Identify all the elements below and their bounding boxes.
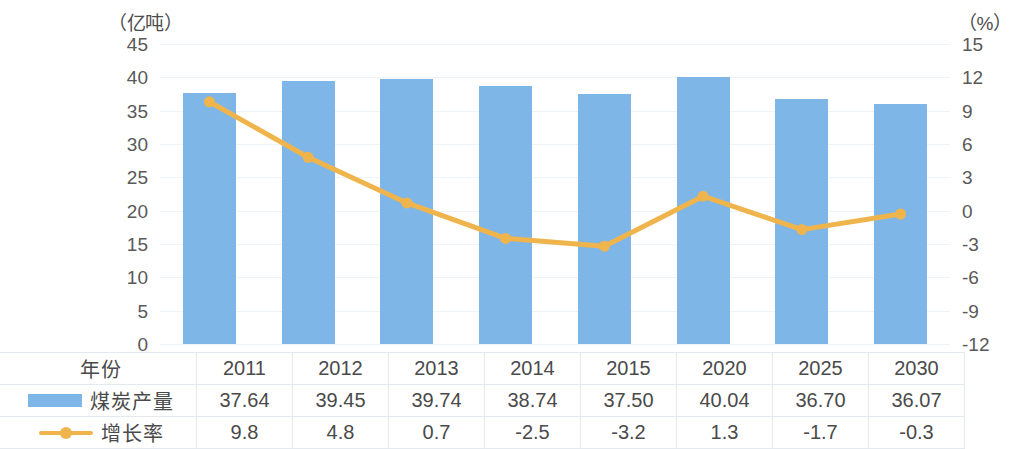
table-cell: 39.45 (293, 385, 389, 417)
table-cell: -2.5 (485, 417, 581, 449)
marker-2030 (895, 209, 906, 220)
row-header-label: 年份 (80, 354, 122, 383)
left-tick-45: 45 (108, 35, 148, 54)
table-cell: 0.7 (389, 417, 485, 449)
row-header-label: 增长率 (101, 418, 164, 447)
right-tick-6: 6 (962, 135, 1008, 154)
right-tick-12: 12 (962, 68, 1008, 87)
marker-2020 (698, 191, 709, 202)
marker-2013 (401, 197, 412, 208)
growth-rate-line (209, 102, 900, 246)
row-header-year: 年份 (0, 353, 197, 385)
table-cell: 2020 (677, 353, 773, 385)
left-tick-30: 30 (108, 135, 148, 154)
table-cell: 38.74 (485, 385, 581, 417)
table-cell: 2025 (773, 353, 869, 385)
table-cell: 4.8 (293, 417, 389, 449)
table-cell: 2015 (581, 353, 677, 385)
table-cell: 2014 (485, 353, 581, 385)
table-cell: -1.7 (773, 417, 869, 449)
right-axis-ticks: 15129630-3-6-9-12 (962, 0, 1008, 448)
left-tick-20: 20 (108, 202, 148, 221)
left-tick-10: 10 (108, 268, 148, 287)
left-tick-35: 35 (108, 102, 148, 121)
left-tick-40: 40 (108, 68, 148, 87)
table-row: 煤炭产量37.6439.4539.7438.7437.5040.0436.703… (0, 385, 965, 417)
table-cell: 40.04 (677, 385, 773, 417)
table-cell: 37.50 (581, 385, 677, 417)
line-series (160, 44, 950, 344)
table-cell: 2012 (293, 353, 389, 385)
left-tick-25: 25 (108, 168, 148, 187)
row-header-label: 煤炭产量 (90, 386, 174, 415)
row-header-coal-production: 煤炭产量 (0, 385, 197, 417)
table-row: 增长率9.84.80.7-2.5-3.21.3-1.7-0.3 (0, 417, 965, 449)
gridline (160, 344, 950, 345)
marker-2012 (303, 152, 314, 163)
table-cell: -3.2 (581, 417, 677, 449)
left-tick-5: 5 (108, 302, 148, 321)
right-tick--12: -12 (962, 335, 1008, 354)
table-row: 年份20112012201320142015202020252030 (0, 353, 965, 385)
table-cell: 1.3 (677, 417, 773, 449)
data-table: 年份20112012201320142015202020252030煤炭产量37… (0, 352, 965, 449)
right-tick-0: 0 (962, 202, 1008, 221)
right-tick-15: 15 (962, 35, 1008, 54)
right-tick--9: -9 (962, 302, 1008, 321)
table-cell: 9.8 (197, 417, 293, 449)
table-cell: 36.07 (869, 385, 965, 417)
growth-rate-markers (204, 96, 906, 251)
plot-area (160, 44, 950, 344)
table-cell: 39.74 (389, 385, 485, 417)
table-cell: 2030 (869, 353, 965, 385)
table-cell: 37.64 (197, 385, 293, 417)
marker-2011 (204, 96, 215, 107)
legend-line-swatch-icon (39, 426, 93, 439)
table-cell: 2011 (197, 353, 293, 385)
table-cell: 36.70 (773, 385, 869, 417)
left-tick-15: 15 (108, 235, 148, 254)
row-header-growth-rate: 增长率 (0, 417, 197, 449)
marker-2015 (599, 241, 610, 252)
legend-bar-swatch-icon (28, 394, 82, 407)
marker-2025 (796, 224, 807, 235)
table-cell: 2013 (389, 353, 485, 385)
right-tick-3: 3 (962, 168, 1008, 187)
right-tick--6: -6 (962, 268, 1008, 287)
right-tick--3: -3 (962, 235, 1008, 254)
table-cell: -0.3 (869, 417, 965, 449)
right-tick-9: 9 (962, 102, 1008, 121)
marker-2014 (500, 233, 511, 244)
